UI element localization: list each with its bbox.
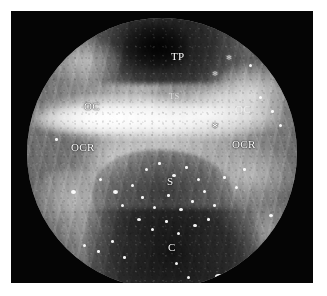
specular-glint xyxy=(243,168,246,171)
specular-glint xyxy=(121,204,124,207)
label-tp: TP xyxy=(171,51,184,62)
specular-glint xyxy=(259,96,262,99)
specular-glint xyxy=(111,240,114,243)
specular-glint xyxy=(177,232,180,235)
specular-glint xyxy=(71,190,76,194)
specular-glint xyxy=(269,214,273,217)
specular-glint xyxy=(203,190,206,193)
specular-glint xyxy=(271,110,274,113)
specular-glint xyxy=(165,220,168,223)
label-ts: TS xyxy=(169,92,180,101)
specular-glint xyxy=(87,270,91,273)
label-ocr-right: OCR xyxy=(232,139,256,150)
endoscopic-field-of-view xyxy=(27,18,297,283)
specular-glint xyxy=(151,228,154,231)
marker-asterisk-left-lower: * xyxy=(212,69,218,81)
specular-glint xyxy=(113,190,118,194)
specular-glint xyxy=(158,162,161,165)
specular-glint xyxy=(197,178,200,181)
specular-glint xyxy=(215,274,225,281)
label-oc-right: OC xyxy=(235,104,251,115)
specular-glint xyxy=(235,186,238,189)
specular-glint xyxy=(223,176,226,179)
specular-glint xyxy=(145,168,148,171)
specular-glint xyxy=(131,184,134,187)
specular-glint xyxy=(97,250,100,253)
specular-glint xyxy=(213,204,216,207)
photograph-frame xyxy=(11,11,313,283)
specular-glint xyxy=(55,138,58,141)
specular-glint xyxy=(83,244,86,247)
specular-glint xyxy=(191,200,194,203)
specular-glint xyxy=(249,64,252,67)
specular-glint xyxy=(141,196,144,199)
specular-glint xyxy=(123,256,126,259)
label-ocr-left: OCR xyxy=(71,142,95,153)
specular-glint xyxy=(137,218,141,221)
specular-glint xyxy=(99,178,102,181)
specular-glint xyxy=(207,218,210,221)
label-c: C xyxy=(168,242,176,253)
figure-root: TP OC OC TS OCR OCR S C * * * xyxy=(0,0,327,296)
marker-asterisk-right-carotid: * xyxy=(212,121,218,133)
specular-glint xyxy=(153,206,156,209)
specular-glint xyxy=(193,224,197,227)
label-s: S xyxy=(167,176,173,187)
label-oc-left: OC xyxy=(84,101,100,112)
marker-asterisk-upper-right: * xyxy=(226,53,232,65)
specular-glint xyxy=(175,262,178,265)
specular-glint xyxy=(179,208,183,211)
specular-glint xyxy=(279,124,282,127)
specular-glint xyxy=(185,166,188,169)
specular-glint xyxy=(167,194,170,197)
specular-glint xyxy=(187,276,190,279)
image-grain xyxy=(27,18,297,283)
